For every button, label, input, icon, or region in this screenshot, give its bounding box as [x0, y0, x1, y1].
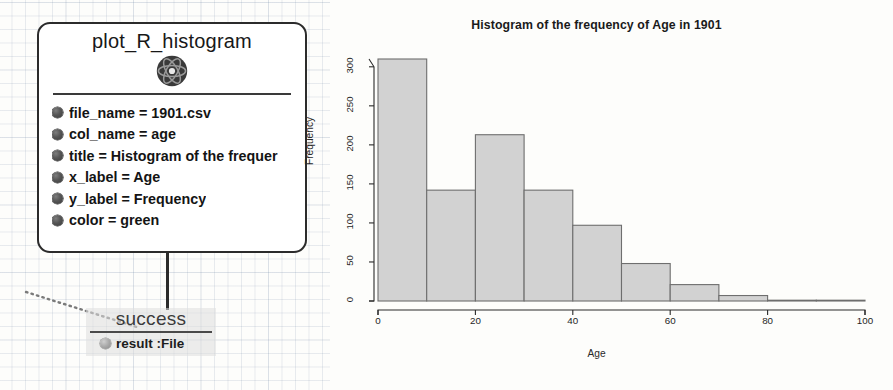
node-parameter-row[interactable]: x_label = Age [52, 167, 305, 189]
success-result-row[interactable]: result :File [86, 336, 216, 351]
histogram-bar [524, 190, 573, 301]
success-output-block[interactable]: success result :File [86, 308, 216, 356]
result-bullet-icon [100, 338, 111, 349]
node-parameter-list: file_name = 1901.csv col_name = age titl… [39, 102, 305, 231]
histogram-bar [816, 300, 865, 301]
result-label: result :File [116, 336, 184, 351]
histogram-bar [573, 225, 622, 301]
node-parameter-row[interactable]: col_name = age [52, 124, 305, 146]
parameter-bullet-icon [52, 172, 63, 183]
node-connector-line [166, 253, 169, 310]
histogram-bar [768, 300, 817, 301]
histogram-bar [670, 285, 719, 301]
success-divider [90, 331, 212, 333]
node-plot-r-histogram[interactable]: plot_R_histogram file_name = 1901.csv co… [37, 22, 307, 253]
atom-icon [39, 54, 305, 88]
histogram-chart: Histogram of the frequency of Age in 190… [300, 0, 893, 390]
parameter-bullet-icon [52, 150, 63, 161]
histogram-bar [475, 135, 524, 301]
parameter-bullet-icon [52, 107, 63, 118]
parameter-label: file_name = 1901.csv [69, 105, 211, 121]
parameter-bullet-icon [52, 215, 63, 226]
chart-plot-area [300, 0, 893, 390]
parameter-label: x_label = Age [69, 169, 160, 185]
success-label: success [86, 308, 216, 330]
histogram-bar [427, 190, 476, 301]
chart-bars [378, 59, 865, 301]
node-parameter-row[interactable]: file_name = 1901.csv [52, 102, 305, 124]
parameter-label: col_name = age [69, 126, 176, 142]
parameter-bullet-icon [52, 193, 63, 204]
node-parameter-row[interactable]: y_label = Frequency [52, 188, 305, 210]
parameter-label: title = Histogram of the frequer [69, 148, 278, 164]
histogram-bar [622, 264, 671, 301]
histogram-bar [719, 296, 768, 301]
node-parameter-row[interactable]: title = Histogram of the frequer [52, 145, 305, 167]
histogram-bar [378, 59, 427, 301]
node-divider [53, 93, 291, 95]
parameter-label: color = green [69, 212, 159, 228]
parameter-bullet-icon [52, 129, 63, 140]
node-parameter-row[interactable]: color = green [52, 210, 305, 232]
parameter-label: y_label = Frequency [69, 191, 206, 207]
node-title: plot_R_histogram [39, 30, 305, 53]
